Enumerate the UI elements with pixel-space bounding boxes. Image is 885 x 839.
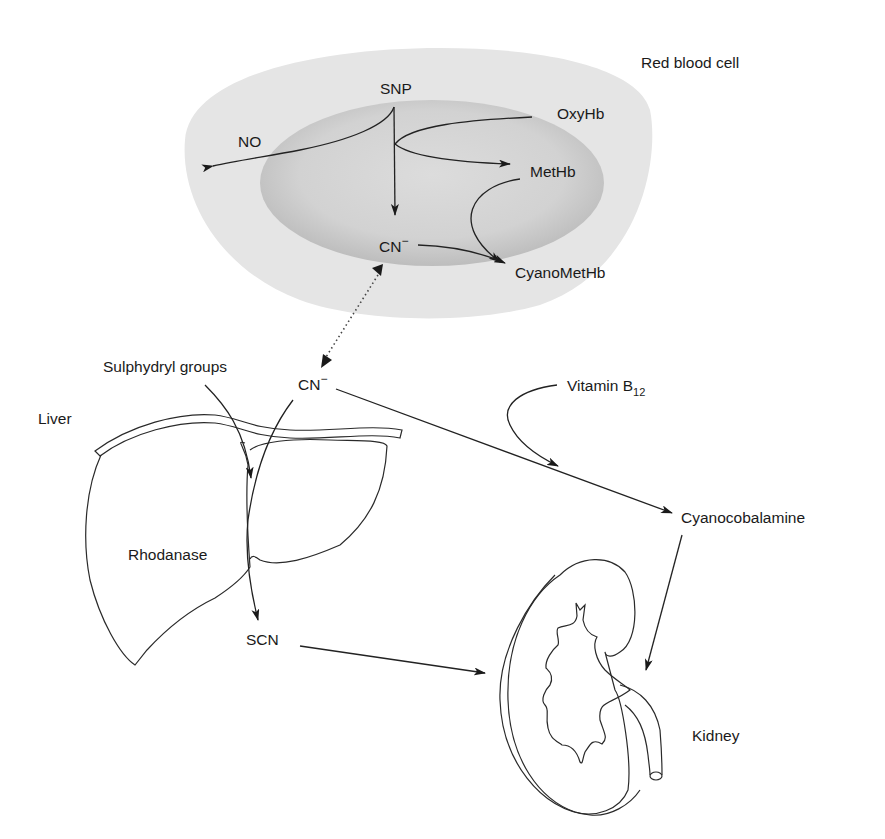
vitamin-b12-text: Vitamin B bbox=[567, 377, 633, 394]
rbc-inner-disc bbox=[260, 100, 604, 266]
rbc-cn-charge: − bbox=[401, 234, 408, 248]
plasma-cn-text: CN bbox=[298, 376, 320, 393]
cyanomethb-label: CyanoMetHb bbox=[515, 264, 605, 281]
scn-label: SCN bbox=[246, 631, 279, 648]
liver-drawing bbox=[86, 415, 402, 665]
liver-right-lobe bbox=[250, 439, 387, 562]
arrow-vitamin-b12-to-cyanocobalamine bbox=[507, 385, 558, 466]
arrow-sulphydryl-to-liver bbox=[205, 385, 251, 478]
kidney-ureter-end bbox=[650, 772, 662, 780]
kidney-drawing bbox=[500, 560, 662, 816]
kidney-capsule-outer bbox=[500, 575, 640, 815]
rhodanase-label: Rhodanase bbox=[128, 546, 207, 563]
plasma-cn-charge: − bbox=[320, 372, 327, 386]
no-label: NO bbox=[238, 133, 261, 150]
red-blood-cell-label: Red blood cell bbox=[641, 54, 739, 71]
vitamin-b12-label: Vitamin B12 bbox=[567, 377, 645, 398]
arrow-scn-to-kidney bbox=[300, 646, 485, 673]
kidney-outline bbox=[508, 560, 635, 814]
oxyhb-label: OxyHb bbox=[557, 105, 604, 122]
snp-metabolism-diagram: Red blood cell SNP NO OxyHb MetHb CN− Cy… bbox=[0, 0, 885, 839]
cyanocobalamine-label: Cyanocobalamine bbox=[681, 509, 805, 526]
vitamin-b12-subscript: 12 bbox=[633, 386, 645, 398]
plasma-cn-label: CN− bbox=[298, 372, 327, 393]
kidney-pelvis bbox=[543, 603, 630, 763]
rbc-cn-text: CN bbox=[379, 238, 401, 255]
kidney-label: Kidney bbox=[692, 727, 740, 744]
snp-label: SNP bbox=[380, 80, 412, 97]
sulphydryl-groups-label: Sulphydryl groups bbox=[103, 358, 227, 375]
arrow-cyanocobalamine-to-kidney bbox=[646, 535, 682, 670]
methb-label: MetHb bbox=[530, 163, 576, 180]
liver-ligament bbox=[95, 415, 402, 456]
kidney-ureter bbox=[620, 685, 662, 775]
arrowhead-cn-exchange-down bbox=[321, 354, 332, 368]
liver-label: Liver bbox=[38, 410, 72, 427]
